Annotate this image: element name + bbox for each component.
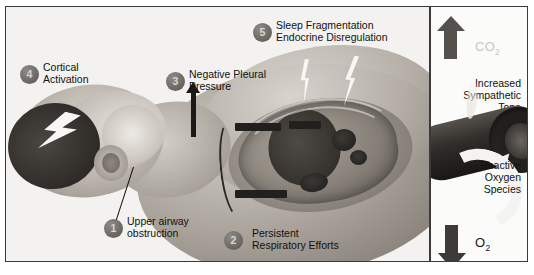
right-consequences-panel: CO2 Increased Sympathetic Tone Reactive … xyxy=(431,7,528,261)
reactive-oxygen-species-label: Reactive Oxygen Species xyxy=(439,159,521,195)
figure-root: 4 Cortical Activation 3 Negative Pleural… xyxy=(0,0,534,275)
callout-label-upper-airway-obstruction: Upper airway obstruction xyxy=(127,216,189,240)
callout-badge-4[interactable]: 4 xyxy=(20,65,39,84)
respiratory-effort-bar xyxy=(289,121,321,129)
o2-label: O2 xyxy=(475,235,490,253)
co2-text: CO xyxy=(475,39,495,54)
callout-label-sleep-fragmentation: Sleep Fragmentation Endocrine Disregulat… xyxy=(276,20,387,44)
diagram-frame: 4 Cortical Activation 3 Negative Pleural… xyxy=(5,6,528,262)
callout-badge-5[interactable]: 5 xyxy=(253,23,272,42)
o2-subscript: 2 xyxy=(485,243,490,253)
respiratory-effort-bar xyxy=(235,123,281,131)
co2-label: CO2 xyxy=(475,39,500,57)
arrow-down-icon xyxy=(445,225,458,253)
negative-pressure-arrow-icon xyxy=(191,91,196,137)
respiratory-effort-bar xyxy=(235,190,287,198)
callout-badge-1[interactable]: 1 xyxy=(104,219,123,238)
o2-text: O xyxy=(475,235,485,250)
co2-subscript: 2 xyxy=(495,47,500,57)
callout-label-persistent-respiratory-efforts: Persistent Respiratory Efforts xyxy=(252,228,339,252)
callout-label-cortical-activation: Cortical Activation xyxy=(43,62,89,86)
left-scene-panel: 4 Cortical Activation 3 Negative Pleural… xyxy=(6,7,429,261)
callout-badge-3[interactable]: 3 xyxy=(166,72,185,91)
callout-label-negative-pleural-pressure: Negative Pleural Pressure xyxy=(189,69,266,93)
arrow-up-icon xyxy=(444,29,457,59)
callout-badge-2[interactable]: 2 xyxy=(224,231,243,250)
